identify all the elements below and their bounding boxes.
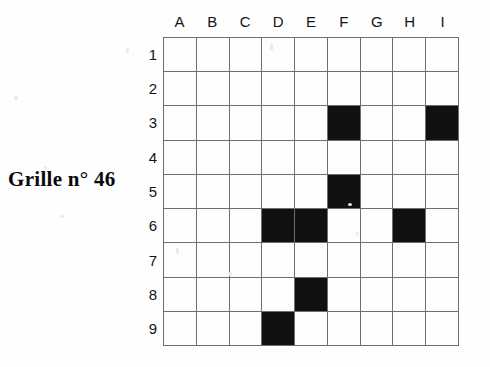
- grid-cell-d4[interactable]: [262, 141, 295, 175]
- column-header-f: F: [327, 10, 360, 34]
- grid-cell-b6[interactable]: [197, 209, 230, 243]
- grid-cell-g5[interactable]: [361, 175, 394, 209]
- column-header-d: D: [262, 10, 295, 34]
- grid-row: [164, 278, 459, 312]
- grid-cell-b3[interactable]: [197, 106, 230, 140]
- grid-cell-e2[interactable]: [295, 72, 328, 106]
- grid-cell-f9[interactable]: [328, 312, 361, 346]
- grid-cell-g9[interactable]: [361, 312, 394, 346]
- crossword-grid-area: ABCDEFGHI 123456789: [163, 37, 459, 346]
- grid-cell-b2[interactable]: [197, 72, 230, 106]
- grid-cell-b8[interactable]: [197, 278, 230, 312]
- grid-cell-g8[interactable]: [361, 278, 394, 312]
- grid-cell-b1[interactable]: [197, 38, 230, 72]
- grid-cell-b9[interactable]: [197, 312, 230, 346]
- grid-cell-d5[interactable]: [262, 175, 295, 209]
- grid-cell-i7[interactable]: [426, 243, 459, 277]
- grid-cell-e8[interactable]: [295, 278, 328, 312]
- grid-row: [164, 209, 459, 243]
- grid-cell-a7[interactable]: [164, 243, 197, 277]
- grid-cell-c3[interactable]: [230, 106, 263, 140]
- row-header-4: 4: [133, 140, 157, 174]
- grid-cell-f2[interactable]: [328, 72, 361, 106]
- grid-cell-a9[interactable]: [164, 312, 197, 346]
- grid-cell-d6[interactable]: [262, 209, 295, 243]
- grid-cell-i3[interactable]: [426, 106, 459, 140]
- grid-cell-h5[interactable]: [393, 175, 426, 209]
- grid-cell-c6[interactable]: [230, 209, 263, 243]
- row-header-7: 7: [133, 243, 157, 277]
- grid-cell-i2[interactable]: [426, 72, 459, 106]
- grid-cell-i9[interactable]: [426, 312, 459, 346]
- grid-cell-f4[interactable]: [328, 141, 361, 175]
- grid-cell-a1[interactable]: [164, 38, 197, 72]
- grid-cell-e4[interactable]: [295, 141, 328, 175]
- grid-cell-h2[interactable]: [393, 72, 426, 106]
- grid-cell-d8[interactable]: [262, 278, 295, 312]
- grid-cell-e1[interactable]: [295, 38, 328, 72]
- grid-cell-h4[interactable]: [393, 141, 426, 175]
- grid-cell-a6[interactable]: [164, 209, 197, 243]
- column-header-e: E: [295, 10, 328, 34]
- grid-cell-i4[interactable]: [426, 141, 459, 175]
- grid-cell-d7[interactable]: [262, 243, 295, 277]
- row-header-column: 123456789: [133, 37, 157, 346]
- grid-cell-c7[interactable]: [230, 243, 263, 277]
- row-header-8: 8: [133, 277, 157, 311]
- grid-row: [164, 106, 459, 140]
- grid-cell-d1[interactable]: [262, 38, 295, 72]
- grid-cell-b7[interactable]: [197, 243, 230, 277]
- grid-cell-h9[interactable]: [393, 312, 426, 346]
- grid-cell-c2[interactable]: [230, 72, 263, 106]
- grid-cell-e6[interactable]: [295, 209, 328, 243]
- grid-cell-c1[interactable]: [230, 38, 263, 72]
- grid-cell-h1[interactable]: [393, 38, 426, 72]
- row-header-2: 2: [133, 71, 157, 105]
- row-header-5: 5: [133, 174, 157, 208]
- grid-cell-h3[interactable]: [393, 106, 426, 140]
- column-header-a: A: [163, 10, 196, 34]
- grid-cell-h7[interactable]: [393, 243, 426, 277]
- grid-cell-i1[interactable]: [426, 38, 459, 72]
- grid-cell-i6[interactable]: [426, 209, 459, 243]
- grid-cell-f5[interactable]: [328, 175, 361, 209]
- grid-cell-g3[interactable]: [361, 106, 394, 140]
- grid-cell-f1[interactable]: [328, 38, 361, 72]
- grid-cell-h8[interactable]: [393, 278, 426, 312]
- grid-row: [164, 38, 459, 72]
- grid-cell-c9[interactable]: [230, 312, 263, 346]
- grid-cell-d2[interactable]: [262, 72, 295, 106]
- grid-cell-a5[interactable]: [164, 175, 197, 209]
- grid-cell-g4[interactable]: [361, 141, 394, 175]
- grid-cell-h6[interactable]: [393, 209, 426, 243]
- grid-cell-d9[interactable]: [262, 312, 295, 346]
- grid-cell-e9[interactable]: [295, 312, 328, 346]
- grid-cell-f7[interactable]: [328, 243, 361, 277]
- grid-cell-i5[interactable]: [426, 175, 459, 209]
- grid-cell-i8[interactable]: [426, 278, 459, 312]
- grid-cell-a3[interactable]: [164, 106, 197, 140]
- grid-cell-a2[interactable]: [164, 72, 197, 106]
- grid-cell-c8[interactable]: [230, 278, 263, 312]
- grid-cell-g6[interactable]: [361, 209, 394, 243]
- grid-cell-g1[interactable]: [361, 38, 394, 72]
- grid-cell-e7[interactable]: [295, 243, 328, 277]
- grid-cell-g2[interactable]: [361, 72, 394, 106]
- grid-cell-c4[interactable]: [230, 141, 263, 175]
- grid-cell-b4[interactable]: [197, 141, 230, 175]
- grid-cell-e5[interactable]: [295, 175, 328, 209]
- grid-cell-d3[interactable]: [262, 106, 295, 140]
- grid-cell-f6[interactable]: [328, 209, 361, 243]
- grid-cell-b5[interactable]: [197, 175, 230, 209]
- grid-cell-g7[interactable]: [361, 243, 394, 277]
- grid-cell-f8[interactable]: [328, 278, 361, 312]
- grid-cell-a4[interactable]: [164, 141, 197, 175]
- column-header-h: H: [393, 10, 426, 34]
- row-header-1: 1: [133, 37, 157, 71]
- grid-cell-f3[interactable]: [328, 106, 361, 140]
- grid-cell-a8[interactable]: [164, 278, 197, 312]
- grid-row: [164, 175, 459, 209]
- grid-cell-c5[interactable]: [230, 175, 263, 209]
- grid-cell-e3[interactable]: [295, 106, 328, 140]
- crossword-grid[interactable]: [163, 37, 459, 346]
